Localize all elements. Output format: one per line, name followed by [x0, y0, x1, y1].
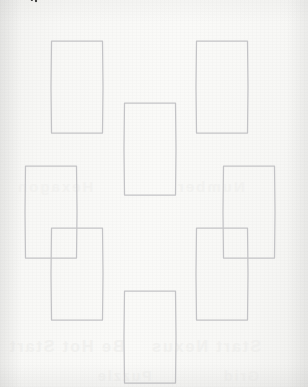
scan-edge-shading	[0, 0, 308, 387]
worksheet-page: Be Hot StartStart NexusHexagonNumberPuzz…	[0, 0, 308, 387]
